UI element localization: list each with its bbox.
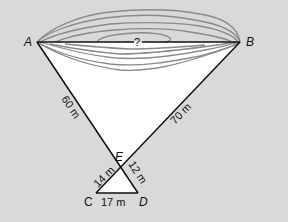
point-e-label: E	[115, 150, 124, 164]
similar-triangles-diagram: ? A B E C D 60 m 70 m 14 m 12 m 17 m	[0, 0, 288, 222]
point-a-label: A	[23, 35, 32, 49]
length-cd-label: 17 m	[101, 196, 125, 208]
point-d-label: D	[139, 195, 148, 209]
unknown-distance-label: ?	[134, 36, 140, 48]
point-c-label: C	[84, 195, 93, 209]
point-b-label: B	[246, 35, 254, 49]
